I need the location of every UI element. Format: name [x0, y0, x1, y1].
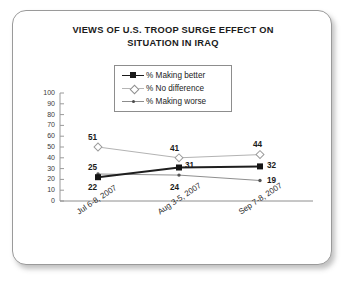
value-label-making-worse-1: 25	[88, 163, 97, 172]
y-tick-label-60: 60	[35, 132, 55, 139]
y-tick-label-10: 10	[35, 186, 55, 193]
y-tick-label-30: 30	[35, 165, 55, 172]
value-label-no-difference-2: 41	[170, 144, 179, 153]
y-axis	[60, 93, 64, 201]
value-label-no-difference-1: 51	[88, 133, 97, 142]
y-tick-label-40: 40	[35, 154, 55, 161]
value-label-making-better-3: 32	[267, 161, 276, 170]
y-tick-label-0: 0	[35, 197, 55, 204]
value-label-making-better-1: 22	[88, 183, 97, 192]
y-tick-label-90: 90	[35, 100, 55, 107]
y-tick-label-20: 20	[35, 175, 55, 182]
chart-plot-area	[13, 11, 333, 266]
value-label-no-difference-3: 44	[253, 140, 262, 149]
y-tick-label-70: 70	[35, 121, 55, 128]
y-tick-label-80: 80	[35, 111, 55, 118]
value-label-making-better-2: 31	[185, 161, 194, 170]
series-making-better	[95, 163, 263, 180]
y-tick-label-100: 100	[35, 89, 55, 96]
y-tick-label-50: 50	[35, 143, 55, 150]
value-label-making-worse-2: 24	[170, 183, 179, 192]
chart-card: VIEWS OF U.S. TROOP SURGE EFFECT ON SITU…	[12, 10, 332, 265]
